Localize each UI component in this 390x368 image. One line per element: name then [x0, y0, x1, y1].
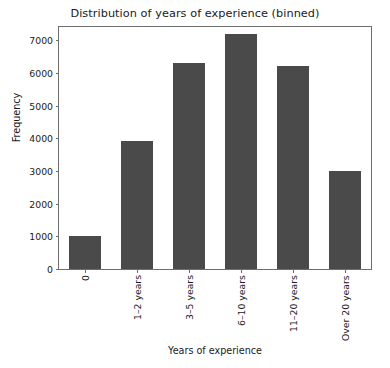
bar-slot [59, 27, 111, 269]
y-axis-tick-label: 1000 [29, 231, 53, 242]
y-axis-tick-mark [56, 40, 60, 41]
y-axis-tick-label: 5000 [29, 100, 53, 111]
x-axis-tick-mark [241, 269, 242, 273]
y-axis-tick-mark [56, 138, 60, 139]
y-axis-tick-label: 0 [47, 264, 53, 275]
chart-figure: Distribution of years of experience (bin… [0, 0, 390, 368]
y-axis-tick-label: 4000 [29, 133, 53, 144]
y-axis-tick-label: 2000 [29, 198, 53, 209]
y-axis-label: Frequency [11, 58, 22, 178]
y-axis-tick-label: 3000 [29, 165, 53, 176]
chart-title: Distribution of years of experience (bin… [0, 7, 390, 20]
bar-slot [319, 27, 371, 269]
x-axis-label: Years of experience [58, 345, 372, 356]
y-axis-tick-mark [56, 171, 60, 172]
bar-slot [267, 27, 319, 269]
x-axis-tick-mark [189, 269, 190, 273]
bar-slot [111, 27, 163, 269]
y-axis-tick-mark [56, 204, 60, 205]
x-axis-tick-mark [137, 269, 138, 273]
x-axis-tick-label: 3–5 years [184, 275, 195, 320]
bar[interactable] [173, 63, 204, 269]
bar[interactable] [225, 34, 256, 269]
y-axis-tick-mark [56, 269, 60, 270]
bar[interactable] [277, 66, 308, 269]
x-axis-tick-label: 1–2 years [132, 275, 143, 320]
y-axis-tick-label: 7000 [29, 35, 53, 46]
bar[interactable] [329, 171, 360, 269]
x-axis-tick-label: 11–20 years [288, 275, 299, 332]
bar[interactable] [121, 141, 152, 269]
y-axis-tick-mark [56, 236, 60, 237]
y-axis-tick-mark [56, 106, 60, 107]
x-axis-tick-mark [293, 269, 294, 273]
y-axis-tick-mark [56, 73, 60, 74]
x-axis-tick-label: 0 [80, 275, 91, 281]
x-axis-tick-mark [85, 269, 86, 273]
x-axis-tick-mark [345, 269, 346, 273]
bar-slot [163, 27, 215, 269]
bars-layer [59, 27, 371, 269]
y-axis-tick-label: 6000 [29, 67, 53, 78]
x-axis-tick-label: 6–10 years [236, 275, 247, 326]
plot-area: 0100020003000400050006000700001–2 years3… [58, 26, 372, 270]
bar[interactable] [69, 236, 100, 269]
x-axis-tick-label: Over 20 years [340, 275, 351, 341]
bar-slot [215, 27, 267, 269]
